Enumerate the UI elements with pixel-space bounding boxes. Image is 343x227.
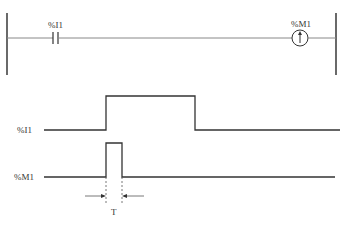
pulse-width-label: T	[111, 207, 117, 217]
normally-open-contact-icon	[53, 32, 58, 44]
signal-label-i1: %I1	[17, 125, 32, 135]
ladder-and-timing-diagram: %I1 %M1 %I1 %M1 T	[0, 0, 343, 227]
signal-label-m1: %M1	[14, 172, 34, 182]
timing-diagram: %I1 %M1 T	[14, 96, 340, 217]
coil-label: %M1	[291, 19, 311, 29]
signal-waveform-m1	[44, 143, 335, 177]
ladder-diagram: %I1 %M1	[7, 13, 336, 75]
contact-label: %I1	[48, 20, 63, 30]
rising-edge-coil-icon	[292, 30, 308, 46]
pulse-width-dimension: T	[85, 177, 144, 217]
arrow-left-icon	[122, 194, 144, 198]
signal-waveform-i1	[44, 96, 340, 130]
arrow-right-icon	[85, 194, 106, 198]
